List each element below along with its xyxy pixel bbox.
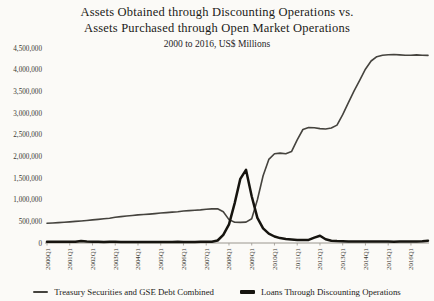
legend-item-loans: Loans Through Discounting Operations	[240, 287, 401, 297]
x-tick-label: 2014Q1	[362, 248, 369, 270]
x-tick-label: 2010Q1	[271, 248, 278, 270]
x-tick-label: 2002Q1	[89, 248, 96, 270]
legend-label-treasury: Treasury Securities and GSE Debt Combine…	[54, 287, 214, 297]
y-tick-label: 2,000,000	[13, 153, 42, 161]
loans-line	[47, 170, 428, 242]
chart-area: 0500,0001,000,0001,500,0002,000,0002,500…	[0, 40, 434, 284]
x-tick-label: 2001Q1	[66, 248, 73, 270]
chart-title-line-1: Assets Obtained through Discounting Oper…	[0, 4, 434, 20]
x-tick-label: 2013Q1	[339, 248, 346, 270]
legend-line-swatch-loans	[240, 290, 255, 293]
x-tick-label: 2007Q1	[203, 248, 210, 270]
legend-item-treasury: Treasury Securities and GSE Debt Combine…	[33, 287, 214, 297]
y-tick-label: 500,000	[19, 218, 43, 226]
treasury-line	[47, 55, 428, 224]
y-tick-label: 1,000,000	[13, 196, 42, 204]
x-tick-label: 2006Q1	[180, 248, 187, 270]
chart-legend: Treasury Securities and GSE Debt Combine…	[0, 287, 434, 297]
x-tick-label: 2015Q1	[385, 248, 392, 270]
y-tick-label: 1,500,000	[13, 175, 42, 183]
x-tick-label: 2000Q1	[44, 248, 51, 270]
x-tick-label: 2005Q1	[157, 248, 164, 270]
y-tick-label: 3,000,000	[13, 110, 42, 118]
x-tick-label: 2009Q1	[248, 248, 255, 270]
chart-title-line-2: Assets Purchased through Open Market Ope…	[0, 20, 434, 36]
y-tick-label: 3,500,000	[13, 88, 42, 96]
y-tick-label: 4,500,000	[13, 45, 42, 53]
x-tick-label: 2012Q1	[316, 248, 323, 270]
x-tick-label: 2004Q1	[134, 248, 141, 270]
legend-label-loans: Loans Through Discounting Operations	[261, 287, 401, 297]
legend-line-swatch-treasury	[33, 291, 48, 293]
x-tick-label: 2003Q1	[112, 248, 119, 270]
x-tick-label: 2016Q1	[407, 248, 414, 270]
x-tick-label: 2011Q1	[294, 248, 301, 270]
y-tick-label: 4,000,000	[13, 66, 42, 74]
y-tick-label: 2,500,000	[13, 131, 42, 139]
y-tick-label: 0	[38, 240, 42, 248]
x-tick-label: 2008Q1	[225, 248, 232, 270]
chart-svg: 0500,0001,000,0001,500,0002,000,0002,500…	[0, 40, 434, 284]
